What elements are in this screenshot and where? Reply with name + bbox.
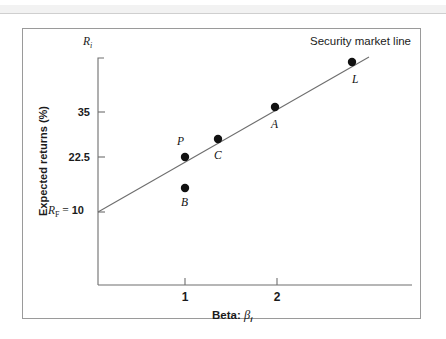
point-label-L: L [352, 74, 358, 86]
point-label-P: P [177, 136, 184, 148]
security-market-line-annotation: Security market line [310, 36, 411, 48]
data-point-P [181, 153, 189, 161]
risk-free-rate-label: RF = 10 [48, 205, 84, 219]
y-tick-label-35: 35 [46, 107, 90, 118]
data-point-A [271, 103, 279, 111]
chart-svg [0, 0, 446, 339]
point-label-A: A [271, 119, 278, 131]
data-point-L [348, 58, 356, 66]
y-tick-label-22-5: 22.5 [40, 152, 90, 163]
figure-page: Ri Expected returns (%) 35 22.5 RF = 10 … [0, 0, 446, 339]
chart-plot-area: Ri Expected returns (%) 35 22.5 RF = 10 … [0, 0, 446, 339]
data-point-C [214, 135, 222, 143]
x-axis-title: Beta: βi [212, 309, 252, 324]
x-tick-label-1: 1 [170, 291, 200, 303]
y-axis-symbol: Ri [83, 36, 92, 50]
point-label-B: B [181, 197, 188, 209]
y-axis-line [98, 58, 104, 285]
x-tick-label-2: 2 [262, 291, 292, 303]
security-market-line [98, 57, 369, 212]
data-point-B [181, 184, 189, 192]
point-label-C: C [214, 150, 222, 162]
